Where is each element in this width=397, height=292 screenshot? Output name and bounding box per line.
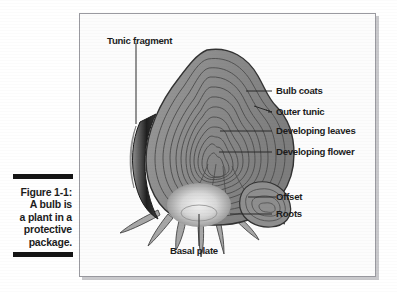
caption-line-2: a plant in a [0, 211, 72, 223]
caption-text: Figure 1-1: A bulb is a plant in a prote… [0, 186, 76, 248]
label-developing-flower: Developing flower [276, 147, 354, 157]
figure-container: Figure 1-1: A bulb is a plant in a prote… [0, 0, 397, 292]
illustration-frame: Tunic fragment Bulb coats Outer tunic De… [79, 13, 376, 277]
label-outer-tunic: Outer tunic [276, 107, 324, 117]
caption-rule-bottom [13, 252, 73, 257]
label-developing-leaves: Developing leaves [276, 126, 355, 136]
caption-rule-top [13, 174, 73, 179]
label-bulb-coats: Bulb coats [276, 86, 323, 96]
caption-line-1: A bulb is [0, 198, 72, 210]
figure-caption-block: Figure 1-1: A bulb is a plant in a prote… [0, 174, 76, 257]
caption-line-4: package. [0, 236, 72, 248]
label-basal-plate: Basal plate [170, 246, 218, 256]
label-tunic-fragment: Tunic fragment [107, 36, 172, 46]
label-roots: Roots [276, 209, 302, 219]
label-offset: Offset [276, 192, 302, 202]
caption-line-3: protective [0, 223, 72, 235]
figure-number: Figure 1-1: [0, 186, 72, 198]
